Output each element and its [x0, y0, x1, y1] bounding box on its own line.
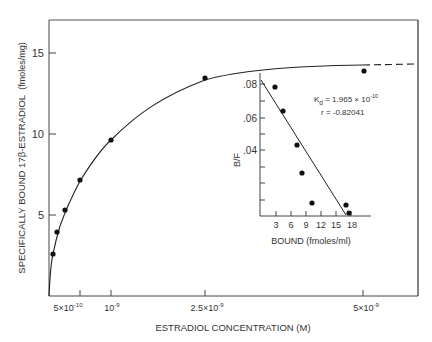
inset-x-tick: 15	[331, 220, 341, 230]
saturation-curve-extrapolation	[363, 64, 416, 65]
inset-y-ticks	[260, 84, 265, 200]
y-tick-5: 5	[38, 209, 44, 221]
inset-x-ticks	[276, 211, 351, 216]
x-tick-1e-9: 10-9	[104, 302, 120, 313]
inset-x-tick: 9	[303, 220, 308, 230]
inset-y-tick-08: .08	[243, 79, 257, 90]
inset-data-points	[272, 84, 351, 215]
data-point	[343, 202, 348, 207]
data-point	[108, 137, 113, 142]
data-point	[361, 68, 366, 73]
inset-scatchard-plot: .08 .06 .04 B/F 3 6 9 12 15 18 BOUND (fm…	[232, 73, 378, 246]
kd-annotation: Kd = 1.965 × 10-10	[314, 93, 378, 106]
y-axis-title: SPECIFICALLY BOUND 17β-ESTRADIOL(fmoles/…	[16, 42, 27, 273]
inset-y-tick-06: .06	[243, 113, 257, 124]
inset-y-axis-title: B/F	[232, 153, 242, 168]
x-axis-ticks	[80, 290, 363, 296]
y-axis-ticks	[49, 53, 56, 215]
data-point	[202, 75, 207, 80]
x-tick-5e-9: 5×10-9	[353, 302, 379, 313]
inset-y-tick-04: .04	[243, 145, 257, 156]
data-point	[309, 200, 314, 205]
data-point	[272, 84, 277, 89]
data-point	[299, 170, 304, 175]
inset-x-tick: 12	[316, 220, 326, 230]
data-point	[50, 251, 55, 256]
y-tick-15: 15	[32, 47, 44, 59]
data-point	[294, 142, 299, 147]
inset-x-tick: 18	[347, 220, 357, 230]
saturation-binding-chart: 15 10 5 5×10-10 10-9 2.5×10-9 5×10-9 EST…	[0, 0, 432, 342]
x-axis-title: ESTRADIOL CONCENTRATION (M)	[155, 322, 310, 333]
inset-x-axis-title: BOUND (fmoles/ml)	[271, 236, 351, 246]
data-point	[77, 177, 82, 182]
y-tick-10: 10	[32, 128, 44, 140]
data-point	[54, 229, 59, 234]
x-tick-5e-10: 5×10-10	[54, 302, 84, 313]
data-point	[346, 210, 351, 215]
x-tick-2.5e-9: 2.5×10-9	[190, 302, 224, 313]
data-point	[280, 108, 285, 113]
data-point	[62, 207, 67, 212]
inset-x-tick: 6	[288, 220, 293, 230]
r-annotation: r = -0.82041	[321, 108, 365, 117]
inset-x-tick: 3	[273, 220, 278, 230]
